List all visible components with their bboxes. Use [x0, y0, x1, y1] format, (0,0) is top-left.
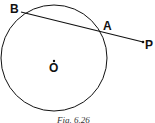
diagram-canvas: B A P O Fig. 6.26: [0, 0, 155, 123]
point-p: [142, 41, 145, 44]
label-b: B: [10, 2, 19, 16]
circle: [1, 5, 107, 111]
label-a: A: [103, 19, 112, 33]
secant-line-bp: [21, 12, 143, 42]
figure-caption: Fig. 6.26: [56, 115, 90, 123]
label-o: O: [49, 61, 58, 75]
label-p: P: [145, 38, 153, 52]
